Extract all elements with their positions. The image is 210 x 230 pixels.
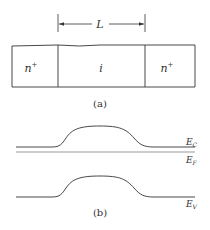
- caption-a: (a): [93, 98, 107, 109]
- region-label-n-plus-right: n+: [161, 61, 174, 75]
- pin-diagram: L n+ i n+ (a) EC EF EV (b): [0, 0, 210, 230]
- band-label-ef: EF: [185, 155, 198, 166]
- band-label-ec: EC: [185, 137, 198, 148]
- caption-b: (b): [93, 207, 107, 218]
- valence-band-curve: [16, 176, 195, 197]
- conduction-band-curve: [16, 126, 195, 147]
- length-label: L: [95, 18, 103, 31]
- arrowhead-left-icon: [59, 22, 64, 26]
- region-label-intrinsic: i: [99, 62, 103, 75]
- arrowhead-right-icon: [139, 22, 144, 26]
- band-label-ev: EV: [185, 199, 198, 210]
- region-label-n-plus-left: n+: [25, 61, 38, 75]
